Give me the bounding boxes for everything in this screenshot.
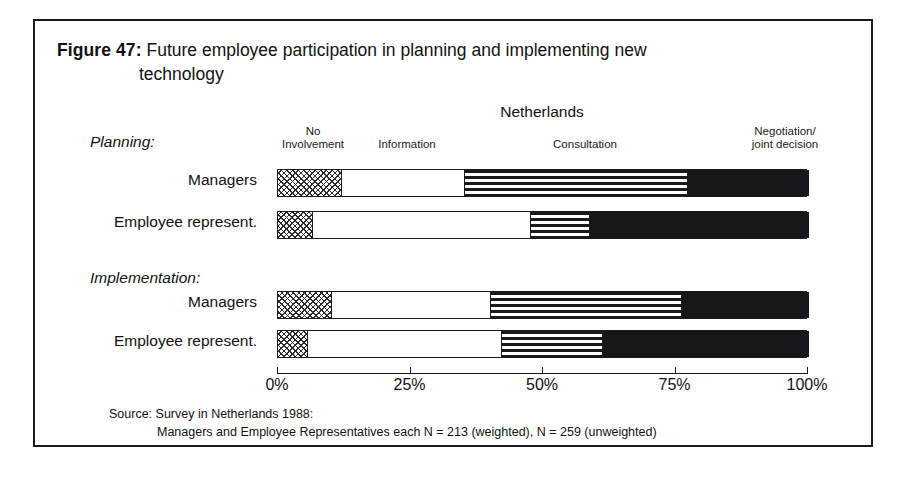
bar-planning-managers	[277, 169, 807, 197]
segment-negotiation	[602, 331, 809, 357]
x-axis-tick-label: 75%	[635, 376, 715, 394]
segment-consultation	[490, 292, 681, 318]
x-axis-tick-label: 50%	[502, 376, 582, 394]
x-axis-tick	[807, 367, 808, 374]
legend-negotiation-line-2: joint decision	[725, 138, 845, 151]
segment-consultation	[530, 212, 589, 238]
x-axis-tick	[410, 367, 411, 374]
x-axis-tick	[675, 367, 676, 374]
legend-label-information: Information	[357, 138, 457, 151]
segment-no-involvement	[278, 212, 312, 238]
segment-negotiation	[687, 170, 809, 196]
segment-negotiation	[589, 212, 809, 238]
legend-label-negotiation: Negotiation/ joint decision	[725, 125, 845, 151]
source-note: Source: Survey in Netherlands 1988: Mana…	[109, 405, 657, 441]
legend-negotiation-line-1: Negotiation/	[725, 125, 845, 138]
legend-label-no-involvement: No Involvement	[267, 125, 359, 151]
legend-label-consultation: Consultation	[505, 138, 665, 151]
bar-implementation-managers	[277, 291, 807, 319]
segment-consultation	[464, 170, 687, 196]
segment-information	[307, 331, 501, 357]
chart-country-title: Netherlands	[277, 103, 807, 121]
segment-no-involvement	[278, 331, 307, 357]
group-title-implementation: Implementation:	[90, 269, 200, 287]
segment-information	[341, 170, 463, 196]
row-label-implementation-employee-represent: Employee represent.	[35, 332, 267, 350]
figure-frame: Figure 47: Future employee participation…	[33, 19, 873, 447]
row-label-implementation-managers: Managers	[35, 293, 267, 311]
group-title-planning: Planning:	[90, 133, 155, 151]
x-axis-tick	[277, 367, 278, 374]
row-label-planning-employee-represent: Employee represent.	[35, 213, 267, 231]
source-line-2: Managers and Employee Representatives ea…	[109, 423, 657, 441]
segment-no-involvement	[278, 170, 341, 196]
x-axis-tick	[542, 367, 543, 374]
bar-implementation-employee-represent	[277, 330, 807, 358]
chart-plot-area: Netherlands No Involvement Information C…	[35, 21, 871, 445]
x-axis-tick-label: 0%	[237, 376, 317, 394]
bar-planning-employee-represent	[277, 211, 807, 239]
segment-no-involvement	[278, 292, 331, 318]
segment-negotiation	[681, 292, 809, 318]
segment-information	[331, 292, 490, 318]
row-label-planning-managers: Managers	[35, 171, 267, 189]
x-axis-tick-label: 25%	[370, 376, 450, 394]
segment-consultation	[501, 331, 602, 357]
segment-information	[312, 212, 529, 238]
legend-no-involvement-line-2: Involvement	[267, 138, 359, 151]
x-axis-tick-label: 100%	[767, 376, 847, 394]
legend-no-involvement-line-1: No	[267, 125, 359, 138]
source-line-1: Source: Survey in Netherlands 1988:	[109, 405, 657, 423]
